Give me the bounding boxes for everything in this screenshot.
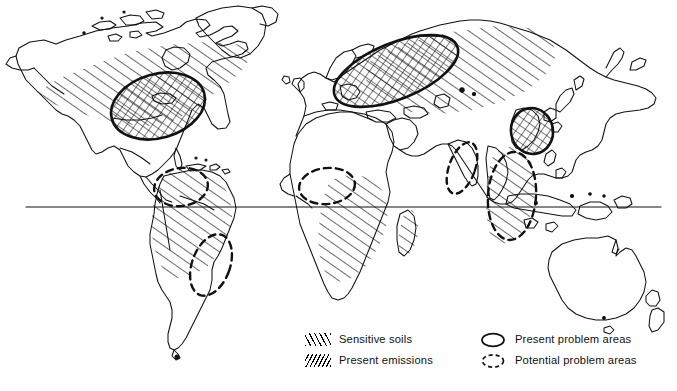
legend-label-sensitive-soils: Sensitive soils xyxy=(339,333,412,346)
potential-problem-ellipse-icon xyxy=(480,353,506,369)
legend-label-present-emissions: Present emissions xyxy=(339,354,433,367)
legend-item-present-problem-areas: Present problem areas xyxy=(480,329,665,350)
map-legend: Sensitive soils Present problem areas Pr… xyxy=(305,329,665,377)
hatch-sensitive-soils-madagascar xyxy=(394,206,424,262)
present-emissions-hatch-swatch-icon xyxy=(305,354,331,367)
legend-label-present-problem-areas: Present problem areas xyxy=(515,333,631,346)
legend-item-potential-problem-areas: Potential problem areas xyxy=(480,350,665,371)
sensitive-soils-hatch-swatch-icon xyxy=(305,333,331,346)
map-ink-layer xyxy=(6,6,664,360)
world-map-figure: Sensitive soils Present problem areas Pr… xyxy=(0,0,677,391)
legend-item-sensitive-soils: Sensitive soils xyxy=(305,329,480,350)
legend-label-potential-problem-areas: Potential problem areas xyxy=(515,354,637,367)
potential-problem-area-southwest-india xyxy=(441,138,484,198)
continent-australia xyxy=(548,236,664,334)
hatch-sensitive-soils-southeast-asia xyxy=(480,140,542,250)
present-problem-ellipse-icon xyxy=(480,332,506,348)
legend-item-present-emissions: Present emissions xyxy=(305,350,480,371)
